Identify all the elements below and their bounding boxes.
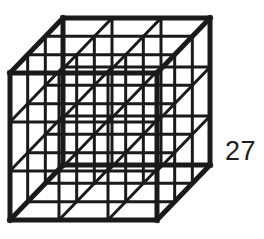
lattice-group [10, 18, 210, 220]
cube-count-label: 27 [225, 138, 256, 165]
cube-lattice-figure [0, 0, 264, 239]
figure-page: 27 [0, 0, 264, 239]
